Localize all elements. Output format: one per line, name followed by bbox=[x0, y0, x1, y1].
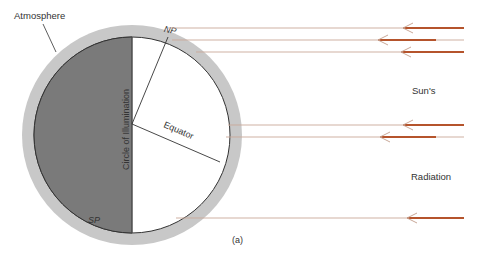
ray-4 bbox=[228, 120, 464, 130]
ray-2 bbox=[172, 35, 464, 45]
ray-5 bbox=[226, 132, 464, 142]
ray-3 bbox=[196, 47, 464, 57]
atmosphere-label: Atmosphere bbox=[14, 10, 65, 21]
ray-1 bbox=[168, 23, 464, 33]
atmosphere-leader-line bbox=[43, 24, 56, 52]
suns-label: Sun's bbox=[412, 85, 436, 96]
ray-6 bbox=[176, 213, 464, 223]
circle-of-illumination-label: Circle of Illumination bbox=[121, 89, 131, 170]
radiation-label: Radiation bbox=[411, 171, 451, 182]
figure-label: (a) bbox=[232, 235, 243, 245]
south-pole-label: SP bbox=[88, 215, 100, 225]
earth-illumination-diagram: Atmosphere NP SP Circle of Illumination … bbox=[0, 0, 484, 262]
